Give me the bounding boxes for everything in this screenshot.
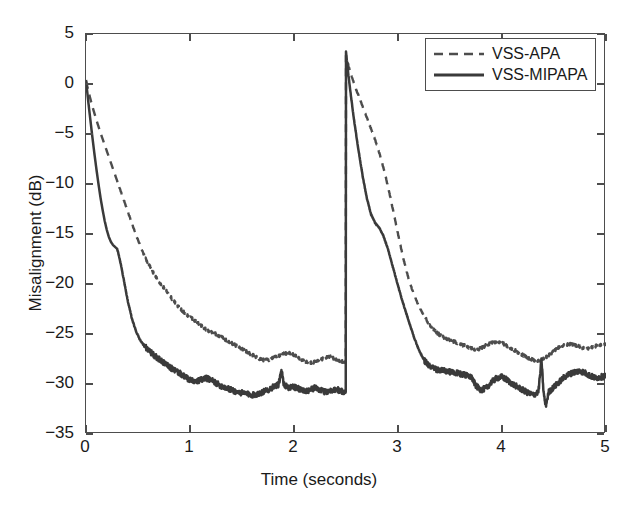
misalignment-chart-figure: 012345 50−5−10−15−20−25−30−35 Time (seco… bbox=[0, 0, 638, 510]
y-tick-7 bbox=[597, 383, 604, 384]
y-tick-3 bbox=[597, 183, 604, 184]
x-tick-label-1: 1 bbox=[169, 437, 209, 456]
legend: VSS-APA VSS-MIPAPA bbox=[425, 38, 596, 91]
y-tick-0 bbox=[86, 33, 93, 34]
x-axis-title: Time (seconds) bbox=[0, 470, 638, 490]
y-tick-2 bbox=[597, 133, 604, 134]
y-tick-4 bbox=[86, 233, 93, 234]
series-layer bbox=[86, 52, 606, 407]
y-tick-label-8: −35 bbox=[18, 423, 74, 442]
x-tick-0 bbox=[85, 425, 86, 432]
legend-label-vss-mipapa: VSS-MIPAPA bbox=[492, 66, 587, 84]
legend-swatch-solid bbox=[433, 69, 485, 81]
x-tick-3 bbox=[397, 34, 398, 41]
legend-swatch-dashed bbox=[433, 48, 485, 60]
y-tick-1 bbox=[86, 83, 93, 84]
y-tick-8 bbox=[86, 433, 93, 434]
legend-item-vss-mipapa: VSS-MIPAPA bbox=[433, 64, 587, 85]
x-tick-label-5: 5 bbox=[585, 437, 625, 456]
x-tick-label-2: 2 bbox=[273, 437, 313, 456]
x-tick-5 bbox=[605, 425, 606, 432]
y-tick-8 bbox=[597, 433, 604, 434]
y-tick-6 bbox=[86, 333, 93, 334]
y-tick-label-0: 5 bbox=[18, 23, 74, 42]
y-tick-3 bbox=[86, 183, 93, 184]
plot-svg bbox=[86, 34, 606, 434]
y-tick-1 bbox=[597, 83, 604, 84]
x-tick-2 bbox=[293, 34, 294, 41]
plot-area bbox=[85, 33, 605, 433]
y-tick-7 bbox=[86, 383, 93, 384]
y-axis-title: Misalignment (dB) bbox=[26, 123, 46, 363]
x-tick-2 bbox=[293, 425, 294, 432]
x-tick-5 bbox=[605, 34, 606, 41]
y-tick-0 bbox=[597, 33, 604, 34]
legend-label-vss-apa: VSS-APA bbox=[492, 45, 560, 63]
series-line-vss-mipapa bbox=[86, 52, 606, 407]
x-tick-label-4: 4 bbox=[481, 437, 521, 456]
x-tick-3 bbox=[397, 425, 398, 432]
x-tick-0 bbox=[85, 34, 86, 41]
x-tick-1 bbox=[189, 425, 190, 432]
y-tick-5 bbox=[86, 283, 93, 284]
legend-item-vss-apa: VSS-APA bbox=[433, 43, 587, 64]
y-tick-label-7: −30 bbox=[18, 373, 74, 392]
x-tick-1 bbox=[189, 34, 190, 41]
x-tick-label-3: 3 bbox=[377, 437, 417, 456]
y-tick-4 bbox=[597, 233, 604, 234]
y-tick-6 bbox=[597, 333, 604, 334]
y-tick-2 bbox=[86, 133, 93, 134]
y-tick-5 bbox=[597, 283, 604, 284]
x-tick-4 bbox=[501, 425, 502, 432]
y-tick-label-1: 0 bbox=[18, 73, 74, 92]
